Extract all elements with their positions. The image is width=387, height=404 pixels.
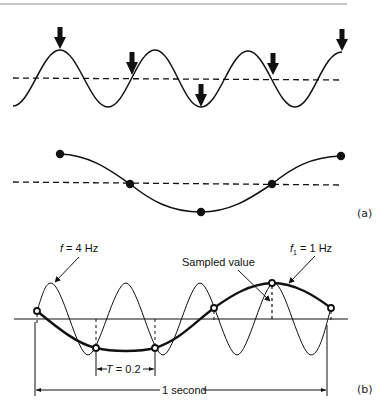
sampling-arrow-icon xyxy=(336,29,348,51)
sampling-arrow-icon xyxy=(195,84,207,107)
label-period: T = 0.2 xyxy=(106,363,141,375)
sample-dot xyxy=(268,180,276,188)
aliasing-diagram: (a) f = 4 Hz Sampled value xyxy=(0,0,387,404)
alias-1hz-wave xyxy=(37,283,331,351)
label-f-4hz: f = 4 Hz xyxy=(60,242,98,254)
sample-dot xyxy=(126,180,134,188)
panel-a-bottom-reconstructed-wave xyxy=(60,154,341,212)
sample-point xyxy=(34,308,40,314)
sampling-arrow-icon xyxy=(267,53,279,75)
panel-a-label: (a) xyxy=(357,207,372,220)
sample-dot xyxy=(197,208,205,216)
sample-dot xyxy=(337,152,345,160)
label-sampled-value: Sampled value xyxy=(182,256,255,268)
sample-point xyxy=(93,345,99,351)
panel-a-top xyxy=(13,27,348,107)
panel-a-bottom: (a) xyxy=(13,150,372,220)
leader-f-4hz xyxy=(55,257,79,282)
sample-point xyxy=(269,280,275,286)
panel-b: f = 4 Hz Sampled value f1 = 1 Hz T = 0.2… xyxy=(14,242,373,396)
panel-a-top-dashed-baseline xyxy=(13,78,340,80)
panel-a-bottom-dashed-baseline xyxy=(13,182,340,185)
label-f1-1hz: f1 = 1 Hz xyxy=(290,242,332,256)
leader-f1-1hz xyxy=(289,256,315,283)
sampling-arrow-icon xyxy=(54,27,66,49)
panel-b-label: (b) xyxy=(357,383,373,396)
sample-point xyxy=(328,305,334,311)
leader-sampled-value xyxy=(238,270,270,301)
sampling-arrow-icon xyxy=(126,52,138,75)
sample-point xyxy=(152,345,158,351)
sample-dot xyxy=(56,150,64,158)
label-one-second: 1 second xyxy=(162,384,207,396)
panel-a-top-sinusoid xyxy=(13,50,342,107)
sample-point xyxy=(211,305,217,311)
